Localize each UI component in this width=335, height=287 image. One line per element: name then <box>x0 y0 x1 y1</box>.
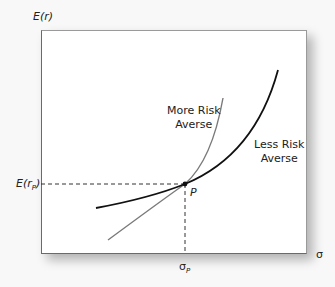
sigma-p-main: σ <box>179 260 186 273</box>
expected-return-p-close: ) <box>36 177 40 190</box>
expected-return-p-label: E(rP) <box>16 177 40 192</box>
more-risk-averse-label-line1: More Risk <box>167 104 221 118</box>
indifference-curve-diagram: E(r) σ E(rP) σP P More Risk Averse Less … <box>0 0 335 287</box>
more-risk-averse-label-line2: Averse <box>167 118 221 132</box>
x-axis-label: σ <box>316 248 323 261</box>
point-p-marker <box>183 182 188 187</box>
less-risk-averse-curve <box>96 70 278 208</box>
less-risk-averse-label-line1: Less Risk <box>254 138 304 152</box>
y-axis-label: E(r) <box>33 10 53 23</box>
less-risk-averse-label: Less Risk Averse <box>254 138 304 166</box>
sigma-p-sub: P <box>186 267 190 275</box>
expected-return-p-main: E(r <box>16 177 32 190</box>
sigma-p-label: σP <box>179 260 190 275</box>
point-p-label: P <box>190 186 197 199</box>
more-risk-averse-label: More Risk Averse <box>167 104 221 132</box>
less-risk-averse-label-line2: Averse <box>254 152 304 166</box>
